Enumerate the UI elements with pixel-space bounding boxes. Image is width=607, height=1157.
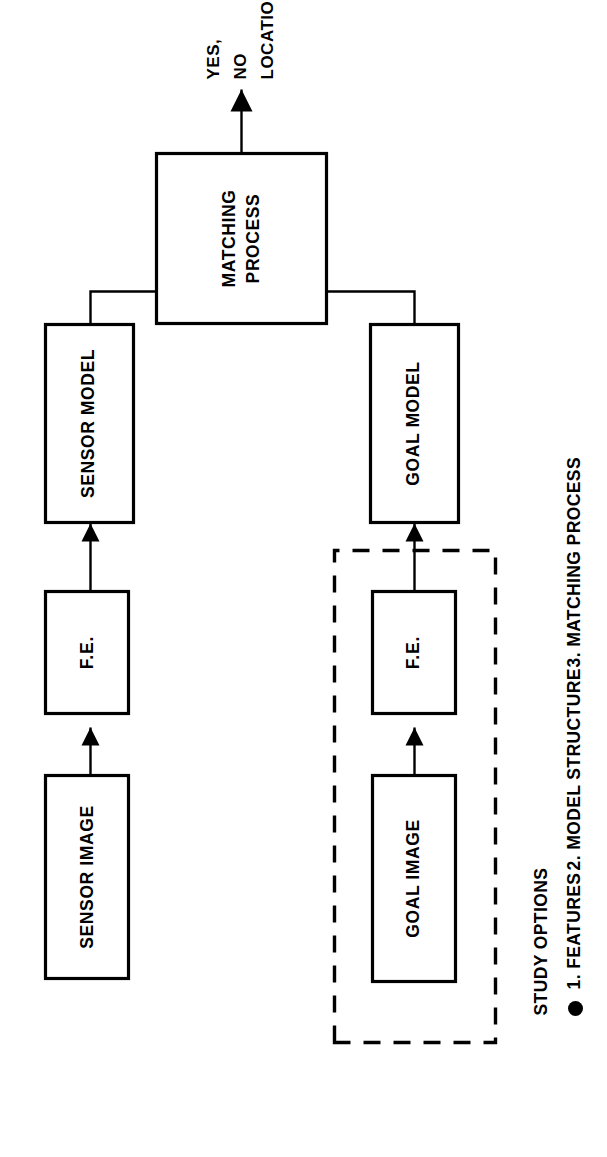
caption-heading: STUDY OPTIONS xyxy=(531,867,551,1015)
block-label-goal-model: GOAL MODEL xyxy=(403,361,423,485)
arrowhead-goal-image-to-fe xyxy=(405,727,423,745)
caption-item-3: 3. MATCHING PROCESS xyxy=(564,457,584,668)
output-label-yes-no-location: YES, NO LOCATION xyxy=(203,0,276,79)
block-label-sensor-model: SENSOR MODEL xyxy=(78,348,98,497)
block-sensor-fe[interactable]: F.E. xyxy=(45,591,128,713)
block-sensor-model[interactable]: SENSOR MODEL xyxy=(45,324,133,522)
block-matching-process[interactable]: MATCHING PROCESS xyxy=(156,153,326,323)
output-label-line3: LOCATION xyxy=(257,0,276,79)
block-label-sensor-fe: F.E. xyxy=(77,635,97,668)
figure-page: SENSOR IMAGE F.E. SENSOR MODEL MATCHING … xyxy=(0,0,607,1157)
block-label-matching-process-line2: PROCESS xyxy=(243,193,263,283)
block-label-matching-process-line1: MATCHING xyxy=(219,189,239,287)
rotated-diagram-canvas: SENSOR IMAGE F.E. SENSOR MODEL MATCHING … xyxy=(0,0,607,1157)
caption-block: STUDY OPTIONS 1. FEATURES 2. MODEL STRUC… xyxy=(531,457,584,1016)
block-label-goal-fe: F.E. xyxy=(403,635,423,668)
arrowhead-sensor-fe-to-model xyxy=(81,523,99,541)
block-goal-model[interactable]: GOAL MODEL xyxy=(370,324,458,522)
caption-item-2: 2. MODEL STRUCTURE xyxy=(564,668,584,870)
block-goal-image[interactable]: GOAL IMAGE xyxy=(372,775,455,981)
block-label-goal-image: GOAL IMAGE xyxy=(403,819,423,937)
block-sensor-image[interactable]: SENSOR IMAGE xyxy=(45,775,128,978)
bullet-icon xyxy=(568,1001,583,1016)
block-label-sensor-image: SENSOR IMAGE xyxy=(77,805,97,948)
arrowhead-sensor-image-to-fe xyxy=(81,727,99,745)
output-label-line2: NO xyxy=(230,53,249,80)
output-label-line1: YES, xyxy=(203,38,222,79)
caption-item-1: 1. FEATURES xyxy=(564,872,584,989)
arrowhead-goal-fe-to-model xyxy=(405,523,423,541)
block-goal-fe[interactable]: F.E. xyxy=(372,591,455,713)
block-diagram-svg: SENSOR IMAGE F.E. SENSOR MODEL MATCHING … xyxy=(0,0,607,1157)
arrowhead-matching-to-output xyxy=(230,89,252,111)
